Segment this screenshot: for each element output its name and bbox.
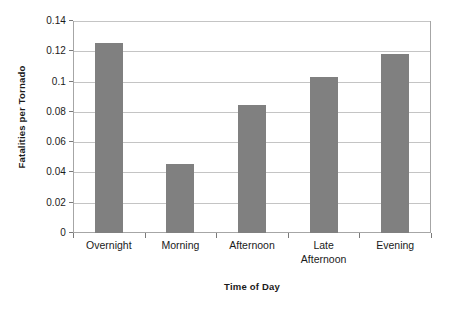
y-tick-label: 0.08 [0, 105, 73, 118]
y-tick-label: 0.04 [0, 165, 73, 178]
x-axis-title: Time of Day [73, 281, 431, 292]
x-tick-label-line: Evening [376, 239, 414, 251]
x-tick-mark [216, 233, 217, 238]
y-tick-label: 0.06 [0, 135, 73, 148]
y-tick-label: 0.12 [0, 44, 73, 57]
bar [166, 164, 194, 233]
bar [381, 54, 409, 233]
y-tick-label: 0 [0, 226, 73, 239]
x-tick-label-line: Morning [161, 239, 199, 251]
bar [95, 43, 123, 233]
y-tick-label: 0.1 [0, 75, 73, 88]
x-tick-mark [73, 233, 74, 238]
x-tick-mark [288, 233, 289, 238]
y-axis-ticks: 00.020.040.060.080.10.120.14 [0, 0, 73, 309]
x-tick-label-line: Overnight [86, 239, 132, 251]
y-tick-label: 0.02 [0, 196, 73, 209]
bar [310, 77, 338, 233]
x-tick-label-line: Late [313, 239, 333, 251]
x-axis-labels: OvernightMorningAfternoonLateAfternoonEv… [73, 239, 431, 285]
bar-chart: Fatalities per Tornado 00.020.040.060.08… [0, 0, 453, 309]
y-tick-label: 0.14 [0, 14, 73, 27]
x-tick-label-line: Afternoon [229, 239, 275, 251]
bars-layer [73, 21, 431, 233]
bar [238, 105, 266, 233]
x-tick-label-line: Afternoon [279, 253, 369, 267]
x-tick-label: Evening [350, 239, 440, 253]
x-tick-mark [359, 233, 360, 238]
x-tick-mark [431, 233, 432, 238]
x-tick-mark [145, 233, 146, 238]
